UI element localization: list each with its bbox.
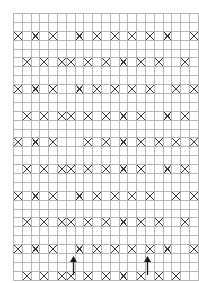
- chart-cell-blank[interactable]: [14, 182, 23, 191]
- chart-cell-blank[interactable]: [128, 76, 137, 85]
- chart-cell-blank[interactable]: [119, 102, 128, 111]
- chart-cell-blank[interactable]: [31, 58, 40, 67]
- chart-cell-blank[interactable]: [101, 174, 110, 183]
- chart-cell-filled[interactable]: [172, 182, 181, 191]
- chart-cell-blank[interactable]: [163, 49, 172, 58]
- chart-cell-blank[interactable]: [181, 120, 190, 129]
- chart-cell-cross[interactable]: [128, 191, 137, 200]
- chart-cell-blank[interactable]: [101, 14, 110, 23]
- chart-cell-cross[interactable]: [66, 111, 75, 120]
- chart-cell-blank[interactable]: [22, 191, 31, 200]
- chart-cell-blank[interactable]: [110, 218, 119, 227]
- chart-cell-cross[interactable]: [84, 271, 93, 280]
- chart-cell-filled[interactable]: [31, 67, 40, 76]
- chart-cell-filled[interactable]: [154, 147, 163, 156]
- chart-cell-blank[interactable]: [181, 271, 190, 280]
- chart-cell-cross[interactable]: [66, 271, 75, 280]
- chart-cell-blank[interactable]: [163, 58, 172, 67]
- chart-cell-blank[interactable]: [57, 120, 66, 129]
- chart-cell-filled[interactable]: [101, 147, 110, 156]
- chart-cell-filled[interactable]: [84, 174, 93, 183]
- chart-cell-filled[interactable]: [75, 254, 84, 263]
- chart-cell-filled[interactable]: [49, 254, 58, 263]
- chart-cell-blank[interactable]: [128, 102, 137, 111]
- chart-cell-blank[interactable]: [75, 111, 84, 120]
- chart-cell-blank[interactable]: [172, 147, 181, 156]
- chart-cell-filled[interactable]: [49, 227, 58, 236]
- chart-cell-cross[interactable]: [40, 271, 49, 280]
- chart-cell-blank[interactable]: [84, 147, 93, 156]
- chart-cell-filled[interactable]: [172, 94, 181, 103]
- chart-cell-cross[interactable]: [145, 191, 154, 200]
- chart-cell-blank[interactable]: [93, 58, 102, 67]
- chart-cell-filled[interactable]: [75, 94, 84, 103]
- chart-cell-blank[interactable]: [145, 129, 154, 138]
- chart-cell-cross[interactable]: [49, 191, 58, 200]
- chart-cell-blank[interactable]: [154, 236, 163, 245]
- chart-cell-blank[interactable]: [119, 236, 128, 245]
- chart-cell-cross[interactable]: [101, 218, 110, 227]
- chart-cell-blank[interactable]: [22, 14, 31, 23]
- chart-cell-filled[interactable]: [49, 236, 58, 245]
- chart-cell-blank[interactable]: [93, 165, 102, 174]
- chart-cell-blank[interactable]: [110, 129, 119, 138]
- chart-cell-cross[interactable]: [172, 85, 181, 94]
- chart-cell-cross[interactable]: [145, 85, 154, 94]
- chart-cell-filled[interactable]: [49, 40, 58, 49]
- chart-cell-blank[interactable]: [189, 67, 198, 76]
- chart-cell-cross[interactable]: [49, 245, 58, 254]
- chart-cell-blank[interactable]: [22, 262, 31, 271]
- chart-cell-cross[interactable]: [31, 31, 40, 40]
- chart-cell-blank[interactable]: [172, 49, 181, 58]
- chart-cell-blank[interactable]: [181, 156, 190, 165]
- chart-cell-filled[interactable]: [31, 209, 40, 218]
- chart-cell-blank[interactable]: [22, 245, 31, 254]
- chart-cell-filled[interactable]: [181, 254, 190, 263]
- chart-cell-blank[interactable]: [137, 129, 146, 138]
- chart-cell-blank[interactable]: [163, 94, 172, 103]
- chart-cell-blank[interactable]: [189, 76, 198, 85]
- chart-cell-blank[interactable]: [163, 85, 172, 94]
- chart-cell-filled[interactable]: [181, 174, 190, 183]
- chart-cell-blank[interactable]: [145, 94, 154, 103]
- chart-cell-blank[interactable]: [172, 120, 181, 129]
- chart-cell-blank[interactable]: [110, 262, 119, 271]
- chart-cell-cross[interactable]: [189, 85, 198, 94]
- chart-cell-blank[interactable]: [137, 254, 146, 263]
- chart-cell-cross[interactable]: [40, 111, 49, 120]
- chart-cell-blank[interactable]: [57, 147, 66, 156]
- chart-cell-blank[interactable]: [189, 147, 198, 156]
- chart-cell-blank[interactable]: [119, 174, 128, 183]
- chart-cell-filled[interactable]: [101, 129, 110, 138]
- chart-cell-blank[interactable]: [40, 191, 49, 200]
- chart-cell-filled[interactable]: [189, 40, 198, 49]
- chart-cell-blank[interactable]: [163, 191, 172, 200]
- chart-cell-cross[interactable]: [145, 31, 154, 40]
- chart-cell-filled[interactable]: [75, 14, 84, 23]
- chart-cell-blank[interactable]: [93, 14, 102, 23]
- chart-cell-blank[interactable]: [57, 76, 66, 85]
- chart-cell-cross[interactable]: [93, 85, 102, 94]
- chart-cell-cross[interactable]: [14, 138, 23, 147]
- chart-cell-blank[interactable]: [84, 156, 93, 165]
- chart-cell-blank[interactable]: [57, 182, 66, 191]
- chart-cell-filled[interactable]: [84, 22, 93, 31]
- chart-cell-blank[interactable]: [181, 227, 190, 236]
- chart-cell-blank[interactable]: [154, 111, 163, 120]
- chart-cell-blank[interactable]: [14, 22, 23, 31]
- chart-cell-cross[interactable]: [119, 218, 128, 227]
- chart-cell-blank[interactable]: [66, 200, 75, 209]
- chart-cell-blank[interactable]: [31, 165, 40, 174]
- chart-cell-blank[interactable]: [14, 227, 23, 236]
- chart-cell-filled[interactable]: [189, 22, 198, 31]
- chart-cell-blank[interactable]: [31, 262, 40, 271]
- chart-cell-blank[interactable]: [93, 94, 102, 103]
- chart-cell-blank[interactable]: [14, 174, 23, 183]
- chart-cell-cross[interactable]: [137, 165, 146, 174]
- chart-cell-blank[interactable]: [189, 165, 198, 174]
- chart-cell-blank[interactable]: [163, 236, 172, 245]
- chart-cell-blank[interactable]: [181, 85, 190, 94]
- chart-cell-cross[interactable]: [14, 31, 23, 40]
- chart-cell-blank[interactable]: [49, 165, 58, 174]
- chart-cell-blank[interactable]: [172, 174, 181, 183]
